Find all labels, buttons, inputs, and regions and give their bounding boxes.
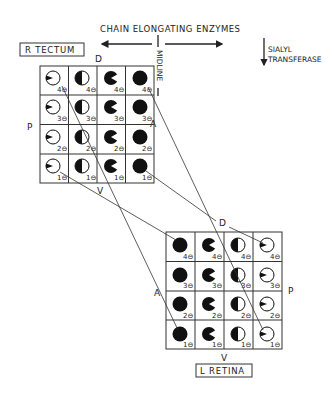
tectum-cell: 2⊖ [133, 130, 153, 154]
tectum-title: R TECTUM [25, 45, 75, 55]
retina-cell: 1⊖ [231, 327, 251, 349]
retina-cell: 3⊖ [202, 268, 222, 290]
retinotectal-map-diagram: CHAIN ELONGATING ENZYMES MIDLINE SIALYL … [0, 0, 334, 410]
retina-axis-a: A [154, 288, 161, 298]
connection-line [60, 172, 176, 240]
svg-text:2⊖: 2⊖ [142, 145, 152, 153]
tectum-cell: 3⊖ [133, 100, 153, 124]
retina-cell: 2⊖ [231, 297, 251, 320]
svg-text:3⊖: 3⊖ [270, 282, 280, 290]
svg-text:1⊖: 1⊖ [270, 341, 280, 349]
connection-line [148, 87, 263, 330]
svg-text:2⊖: 2⊖ [183, 312, 193, 320]
sialyl-label-line2: TRANSFERASE [267, 55, 322, 64]
retina-cell: 3⊖ [260, 268, 281, 290]
sialyl-label-line1: SIALYL [268, 45, 293, 54]
retina-cell: 1⊖ [173, 327, 194, 350]
retina-cell: 4⊖ [260, 238, 281, 261]
tectum-cell: 1⊖ [75, 159, 96, 182]
retina-cell: 4⊖ [202, 238, 222, 261]
svg-text:3⊖: 3⊖ [86, 115, 96, 123]
retina-cell: 2⊖ [260, 297, 281, 320]
svg-text:3⊖: 3⊖ [114, 115, 124, 123]
svg-text:1⊖: 1⊖ [241, 341, 251, 349]
retina-cell: 1⊖ [202, 327, 222, 349]
tectum-cell: 1⊖ [104, 159, 124, 182]
tectum-cell: 2⊖ [46, 130, 68, 153]
tectum-cell: 4⊖ [104, 71, 124, 94]
tectum-axis-p: P [27, 122, 33, 132]
retina-cell: 4⊖ [173, 238, 194, 262]
tectum-axis-d: D [95, 54, 102, 64]
svg-text:2⊖: 2⊖ [57, 145, 67, 153]
svg-text:3⊖: 3⊖ [183, 282, 193, 290]
retina-cells: 4⊖ 4⊖ 4⊖ 4⊖ 3⊖ 3⊖ 3⊖ [173, 238, 281, 350]
tectum-cell: 1⊖ [133, 159, 153, 183]
retina-cell: 3⊖ [231, 268, 251, 290]
tectum-cell: 1⊖ [46, 159, 68, 182]
tectum-cell: 3⊖ [46, 100, 68, 123]
retina-cell: 1⊖ [260, 327, 281, 349]
retina-cell: 2⊖ [202, 297, 222, 320]
svg-text:4⊖: 4⊖ [183, 253, 193, 261]
retina-axis-d: D [219, 218, 226, 228]
svg-text:4⊖: 4⊖ [241, 253, 251, 261]
svg-text:2⊖: 2⊖ [114, 145, 124, 153]
gradient-label: CHAIN ELONGATING ENZYMES [100, 24, 241, 34]
svg-text:2⊖: 2⊖ [241, 312, 251, 320]
svg-text:2⊖: 2⊖ [86, 145, 96, 153]
retina-axis-v: V [221, 353, 228, 363]
svg-text:3⊖: 3⊖ [212, 282, 222, 290]
tectum-cells: 4⊖ 4⊖ 4⊖ 4⊖ 3⊖ 3⊖ 3⊖ [46, 71, 153, 183]
svg-text:1⊖: 1⊖ [183, 341, 193, 349]
svg-text:2⊖: 2⊖ [270, 312, 280, 320]
retina-title: L RETINA [200, 366, 245, 376]
retina-cell: 4⊖ [231, 238, 251, 261]
svg-text:1⊖: 1⊖ [86, 174, 96, 182]
svg-text:1⊖: 1⊖ [142, 174, 152, 182]
tectum-cell: 3⊖ [104, 100, 124, 123]
svg-text:1⊖: 1⊖ [212, 341, 222, 349]
svg-text:4⊖: 4⊖ [270, 253, 280, 261]
svg-text:2⊖: 2⊖ [212, 312, 222, 320]
retina-cell: 3⊖ [173, 268, 194, 291]
connection-line [146, 171, 216, 221]
tectum-cell: 4⊖ [75, 71, 96, 94]
retina-cell: 2⊖ [173, 297, 194, 321]
svg-text:1⊖: 1⊖ [114, 174, 124, 182]
svg-text:3⊖: 3⊖ [142, 115, 152, 123]
tectum-cell: 2⊖ [104, 130, 124, 153]
svg-text:4⊖: 4⊖ [114, 86, 124, 94]
retina-axis-p: P [288, 286, 294, 296]
midline-label: MIDLINE [155, 50, 164, 81]
tectum-cell: 2⊖ [75, 130, 96, 153]
svg-text:4⊖: 4⊖ [212, 253, 222, 261]
svg-text:3⊖: 3⊖ [57, 115, 67, 123]
svg-text:4⊖: 4⊖ [86, 86, 96, 94]
